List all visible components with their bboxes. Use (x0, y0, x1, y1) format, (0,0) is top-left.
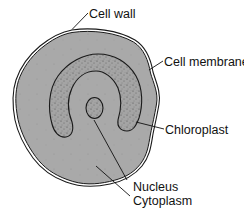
cell-membrane-label: Cell membrane (164, 55, 244, 69)
plant-cell-diagram: Cell wall Cell membrane Chloroplast Nucl… (0, 0, 244, 214)
chloroplast-label: Chloroplast (165, 123, 229, 137)
nucleus (86, 98, 103, 119)
cell-wall-label: Cell wall (89, 7, 136, 21)
cytoplasm-label: Cytoplasm (133, 194, 192, 208)
nucleus-label: Nucleus (133, 180, 178, 194)
cell-wall-leader (72, 13, 88, 30)
